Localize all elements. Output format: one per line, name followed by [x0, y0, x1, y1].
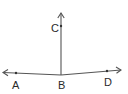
label-c: C: [51, 22, 59, 34]
point-c: [60, 25, 62, 27]
label-a: A: [12, 79, 20, 91]
label-b: B: [58, 79, 65, 91]
label-d: D: [104, 76, 112, 88]
ray-ba: [3, 70, 61, 76]
point-a: [15, 72, 17, 74]
geometry-diagram: C A B D: [0, 0, 128, 94]
ray-bd: [61, 67, 121, 75]
point-d: [106, 70, 108, 72]
